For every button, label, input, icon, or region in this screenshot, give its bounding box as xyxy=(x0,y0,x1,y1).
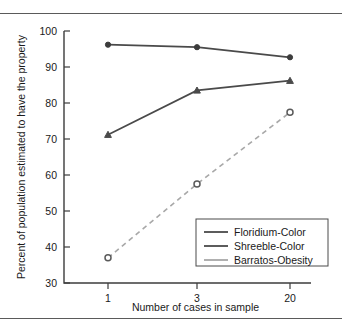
data-point-marker xyxy=(287,109,293,115)
y-axis-title: Percent of population estimated to have … xyxy=(15,34,27,279)
legend-label: Barratos-Obesity xyxy=(234,254,314,266)
y-tick-label: 60 xyxy=(45,169,57,181)
line-chart: 30405060708090100 1320 Floridium-ColorSh… xyxy=(0,0,342,330)
legend-label: Shreeble-Color xyxy=(234,240,305,252)
series-line xyxy=(108,81,290,135)
y-tick-label: 50 xyxy=(45,205,57,217)
legend-label: Floridium-Color xyxy=(234,226,306,238)
y-tick-label: 80 xyxy=(45,97,57,109)
y-tick-label: 90 xyxy=(45,61,57,73)
data-point-marker xyxy=(105,255,111,261)
y-tick-label: 40 xyxy=(45,241,57,253)
x-axis-title: Number of cases in sample xyxy=(132,301,259,313)
series-shreeble-color xyxy=(105,77,294,137)
data-point-marker xyxy=(194,45,199,50)
y-tick-label: 100 xyxy=(39,25,57,37)
data-point-marker xyxy=(287,55,292,60)
figure-container: 30405060708090100 1320 Floridium-ColorSh… xyxy=(0,0,342,330)
y-tick-label: 70 xyxy=(45,133,57,145)
x-tick-label: 20 xyxy=(284,292,296,304)
y-tick-label: 30 xyxy=(45,277,57,289)
series-floridium-color xyxy=(105,42,292,60)
data-point-marker xyxy=(105,42,110,47)
x-axis-ticks xyxy=(108,283,290,289)
data-point-marker xyxy=(194,181,200,187)
y-axis-ticks xyxy=(64,31,70,283)
chart-legend: Floridium-ColorShreeble-ColorBarratos-Ob… xyxy=(196,219,328,266)
y-axis-tick-labels: 30405060708090100 xyxy=(39,25,57,289)
x-tick-label: 1 xyxy=(105,292,111,304)
